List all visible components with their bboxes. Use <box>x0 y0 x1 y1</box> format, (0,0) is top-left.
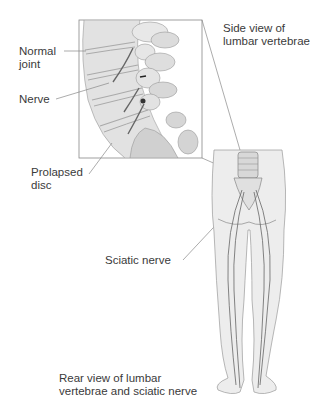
label-sciatic-nerve: Sciatic nerve <box>105 254 171 267</box>
label-normal-joint: Normal joint <box>19 45 56 70</box>
rear-body-figure <box>212 150 286 394</box>
label-nerve: Nerve <box>19 93 50 106</box>
label-side-view: Side view of lumbar vertebrae <box>223 22 310 47</box>
label-prolapsed-disc: Prolapsed disc <box>31 166 83 191</box>
side-view-inset <box>79 20 202 158</box>
label-rear-view: Rear view of lumbar vertebrae and sciati… <box>59 372 197 397</box>
